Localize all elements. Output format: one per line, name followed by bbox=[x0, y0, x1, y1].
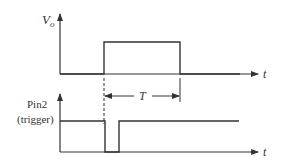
period-label: T bbox=[139, 89, 147, 103]
output-y-label: Vo bbox=[42, 12, 55, 29]
trigger-waveform bbox=[60, 121, 239, 152]
trigger-x-label: t bbox=[263, 145, 267, 159]
timing-diagram: Vo t T Pin2 (trigger) t bbox=[0, 0, 288, 166]
output-x-label: t bbox=[263, 67, 267, 81]
output-pulse-waveform bbox=[60, 42, 240, 74]
period-annotation: T bbox=[104, 78, 180, 124]
trigger-y-label-line2: (trigger) bbox=[17, 113, 54, 126]
trigger-y-label-line1: Pin2 bbox=[27, 98, 47, 110]
output-plot: Vo t bbox=[42, 12, 267, 81]
trigger-plot: Pin2 (trigger) t bbox=[17, 94, 267, 159]
